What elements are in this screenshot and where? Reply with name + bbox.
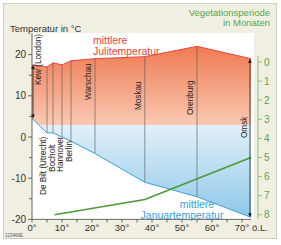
station-label: Hannover [56,136,65,172]
left-axis-title: Temperatur in °C [10,23,82,34]
station-label: Warschau [84,63,93,100]
x-tick-label: 20° [85,222,100,233]
x-tick-label: 50° [175,222,190,233]
climate-chart: Kew (London)De Bilt (Utrecht)BocholtHann… [0,0,281,245]
january-annotation-line2: Januartemperatur [141,209,224,221]
july-annotation-line2: Julitemperatur [93,45,160,57]
x-tick-label: 70° [235,222,250,233]
station-label: De Bilt (Utrecht) [39,136,48,195]
right-tick-label: 2 [264,95,270,106]
x-tick-label: 10° [55,222,70,233]
station-label: Omsk [240,116,249,138]
station-label: Orenburg [186,80,195,115]
x-tick-label: 60° [205,222,220,233]
x-tick-label: 30° [115,222,130,233]
right-tick-label: 8 [264,209,270,220]
right-tick-label: 5 [264,152,270,163]
x-unit-label: ö.L. [252,222,268,233]
right-tick-label: 7 [264,190,270,201]
image-code: 123466E [5,233,23,238]
right-tick-label: 1 [264,76,270,87]
x-tick-label: 40° [145,222,160,233]
y-tick-label: 10 [15,90,27,101]
station-label: Moskau [134,81,143,110]
right-axis-title-line2: in Monaten [223,17,270,28]
station-label: Kew (London) [34,34,43,85]
right-tick-label: 0 [264,57,270,68]
x-tick-label: 0° [27,222,36,233]
y-tick-label: 20 [15,49,27,60]
y-tick-label: 0 [20,132,26,143]
y-tick-label: -10 [12,173,27,184]
right-tick-label: 3 [264,114,270,125]
right-tick-label: 4 [264,133,270,144]
station-label: Berlin [65,141,74,162]
right-tick-label: 6 [264,171,270,182]
y-tick-label: -20 [12,214,27,225]
